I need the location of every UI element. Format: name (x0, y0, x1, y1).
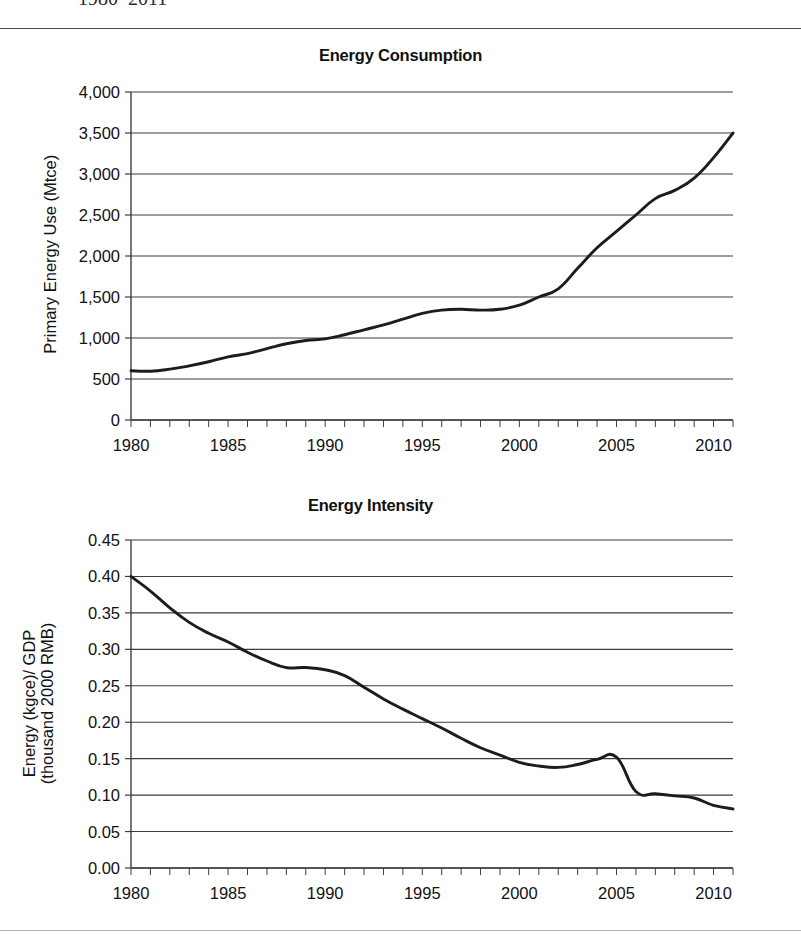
y-tick-label: 1,000 (79, 329, 120, 347)
y-tick-label: 0.00 (88, 859, 120, 877)
x-tick-label: 2010 (695, 884, 732, 902)
footer-rule (0, 930, 801, 931)
y-tick-label: 1,500 (79, 288, 120, 306)
y-tick-label: 0.05 (88, 823, 120, 841)
y-tick-label: 0.20 (88, 713, 120, 731)
y-tick-label: 2,000 (79, 247, 120, 265)
y-tick-label: 0.35 (88, 604, 120, 622)
data-series-line (131, 133, 733, 371)
chart-energy-intensity: Energy Intensity Energy (kgce)/ GDP (tho… (0, 490, 801, 930)
y-tick-label: 3,500 (79, 124, 120, 142)
x-tick-label: 2005 (598, 884, 635, 902)
x-tick-label: 1995 (404, 436, 441, 454)
y-tick-label: 0.10 (88, 786, 120, 804)
x-tick-label: 2000 (501, 436, 538, 454)
y-tick-label: 4,000 (79, 83, 120, 101)
x-tick-label: 2005 (598, 436, 635, 454)
y-tick-label: 2,500 (79, 206, 120, 224)
y-tick-label: 0.15 (88, 750, 120, 768)
y-tick-label: 0 (111, 411, 120, 429)
figure-page: 1980–2011 Energy Consumption Primary Ene… (0, 0, 801, 938)
y-tick-label: 0.30 (88, 640, 120, 658)
plot-area: 05001,0001,5002,0002,5003,0003,5004,0001… (0, 40, 801, 475)
x-tick-label: 1985 (210, 436, 247, 454)
y-tick-label: 0.40 (88, 567, 120, 585)
caption-fragment: 1980–2011 (0, 0, 801, 22)
chart-energy-consumption: Energy Consumption Primary Energy Use (M… (0, 40, 801, 475)
header-rule (0, 28, 801, 29)
x-tick-label: 2000 (501, 884, 538, 902)
data-series-line (131, 576, 733, 809)
x-tick-label: 1990 (307, 884, 344, 902)
plot-area: 0.000.050.100.150.200.250.300.350.400.45… (0, 490, 801, 930)
y-tick-label: 500 (92, 370, 120, 388)
y-tick-label: 0.25 (88, 677, 120, 695)
y-tick-label: 0.45 (88, 531, 120, 549)
x-tick-label: 2010 (695, 436, 732, 454)
caption-fragment-text: 1980–2011 (78, 0, 167, 10)
x-tick-label: 1990 (307, 436, 344, 454)
x-tick-label: 1980 (113, 436, 150, 454)
x-tick-label: 1985 (210, 884, 247, 902)
x-tick-label: 1980 (113, 884, 150, 902)
x-tick-label: 1995 (404, 884, 441, 902)
y-tick-label: 3,000 (79, 165, 120, 183)
